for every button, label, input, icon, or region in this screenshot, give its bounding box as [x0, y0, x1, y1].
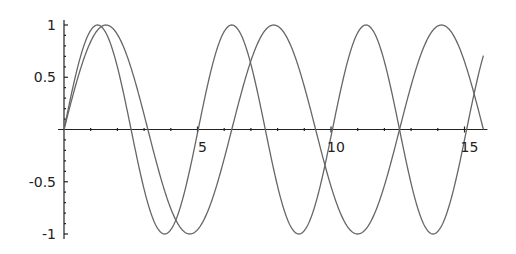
- y-tick-label: -0.5: [29, 174, 56, 190]
- chart-plot: 5101510.5-0.5-1: [0, 0, 516, 254]
- axes: [58, 20, 487, 239]
- y-tick-label: -1: [42, 226, 56, 242]
- y-tick-label: 0.5: [34, 69, 56, 85]
- x-tick-label: 5: [198, 139, 207, 155]
- x-tick-label: 15: [461, 139, 479, 155]
- x-tick-label: 10: [327, 139, 345, 155]
- y-tick-label: 1: [47, 17, 56, 33]
